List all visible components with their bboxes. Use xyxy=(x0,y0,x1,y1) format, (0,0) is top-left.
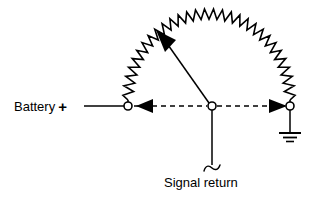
wire-break-squiggle-icon xyxy=(204,165,220,171)
battery-label: Battery+ xyxy=(14,99,67,114)
current-arrow-diagonal-line xyxy=(166,42,209,103)
battery-positive-node xyxy=(124,102,132,110)
current-arrow-left-icon xyxy=(136,99,153,113)
circuit-diagram: Battery+ Signal return xyxy=(0,0,320,203)
signal-return-label: Signal return xyxy=(164,176,238,189)
ground-node xyxy=(286,102,294,110)
zigzag-arc-group xyxy=(123,9,295,102)
battery-polarity-plus-icon: + xyxy=(55,98,67,115)
earth-ground-symbol xyxy=(279,133,301,142)
battery-label-text: Battery xyxy=(14,99,55,114)
signal-return-node xyxy=(208,102,216,110)
zigzag-arc-icon xyxy=(123,9,295,100)
current-arrow-right-icon xyxy=(269,99,287,113)
